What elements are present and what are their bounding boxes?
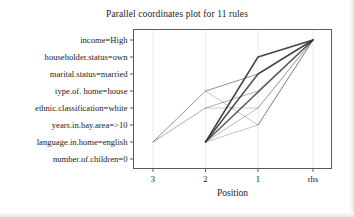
parallel-coordinates-figure: Parallel coordinates plot for 11 rules i… — [0, 0, 354, 217]
y-axis-tick-label: householder.status=own — [45, 52, 129, 62]
y-axis-tick-label: marital.status=married — [50, 69, 128, 79]
x-axis-tick-label: 3 — [151, 174, 155, 184]
y-axis-tick-label: number.of.children=0 — [53, 154, 128, 164]
y-axis-tick-label: years.in.bay.area=>10 — [52, 120, 128, 130]
y-axis-tick-label: ethnic.classification=white — [35, 103, 128, 113]
series-group — [153, 40, 313, 142]
y-axis-tick-label: language.in.home=english — [37, 137, 128, 147]
chart-canvas: income=Highhouseholder.status=ownmarital… — [0, 0, 354, 217]
x-axis-tick-label: 1 — [256, 174, 260, 184]
y-axis-tick-label: type.of. home=house — [55, 86, 128, 96]
y-axis-tick-label: income=High — [80, 35, 128, 45]
series-line — [258, 40, 313, 125]
x-axis-title: Position — [133, 188, 332, 198]
series-line — [206, 40, 314, 125]
x-axis-tick-label: rhs — [308, 174, 319, 184]
x-axis-tick-label: 2 — [203, 174, 207, 184]
